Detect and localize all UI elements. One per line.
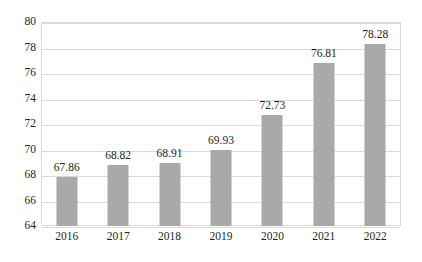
bar-value-label: 72.73 (259, 100, 285, 112)
x-tick-label: 2019 (210, 231, 233, 243)
x-tick-label: 2018 (158, 231, 181, 243)
y-tick-label: 70 (25, 144, 37, 156)
bar[interactable] (365, 44, 386, 226)
bar-group[interactable]: 76.81 (298, 22, 349, 226)
y-tick-label: 72 (25, 118, 37, 130)
x-tick-label: 2020 (261, 231, 284, 243)
y-tick-label: 66 (25, 195, 37, 207)
y-tick-label: 64 (25, 220, 37, 232)
bar-group[interactable]: 68.91 (144, 22, 195, 226)
bar-value-label: 68.91 (157, 148, 183, 160)
bar-group[interactable]: 72.73 (247, 22, 298, 226)
bar-value-label: 69.93 (208, 135, 234, 147)
bars-layer: 67.8668.8268.9169.9372.7376.8178.28 (41, 22, 401, 226)
bar-chart: 807876747270686664 67.8668.8268.9169.937… (0, 0, 422, 262)
y-tick-label: 78 (25, 42, 37, 54)
bar-group[interactable]: 69.93 (195, 22, 246, 226)
bar[interactable] (313, 63, 334, 226)
x-tick-label: 2016 (55, 231, 78, 243)
bar-value-label: 78.28 (362, 29, 388, 41)
bar[interactable] (159, 163, 180, 226)
bar-group[interactable]: 68.82 (92, 22, 143, 226)
bar-value-label: 76.81 (311, 48, 337, 60)
x-tick-label: 2021 (312, 231, 335, 243)
bar[interactable] (56, 177, 77, 226)
bar-value-label: 68.82 (105, 150, 131, 162)
y-axis: 807876747270686664 (0, 22, 36, 226)
bar-value-label: 67.86 (54, 162, 80, 174)
bar[interactable] (108, 165, 129, 226)
x-tick-label: 2017 (107, 231, 130, 243)
y-tick-label: 76 (25, 67, 37, 79)
bar-group[interactable]: 78.28 (350, 22, 401, 226)
x-axis: 2016201720182019202020212022 (41, 231, 401, 251)
bar[interactable] (210, 150, 231, 226)
y-tick-label: 80 (25, 16, 37, 28)
x-tick-label: 2022 (364, 231, 387, 243)
y-tick-label: 68 (25, 169, 37, 181)
bar-group[interactable]: 67.86 (41, 22, 92, 226)
bar[interactable] (262, 115, 283, 226)
gridline (42, 227, 400, 228)
y-tick-label: 74 (25, 93, 37, 105)
